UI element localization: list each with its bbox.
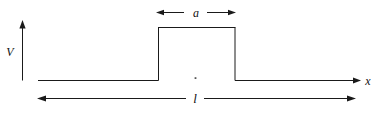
potential-barrier-figure: V x a [0,0,379,113]
horizontal-axis-label: x [364,74,371,88]
vertical-axis-label: V [6,45,15,59]
total-length-left-arrowhead-icon [37,95,46,101]
total-length-right-arrowhead-icon [347,95,356,101]
horizontal-axis-arrowhead-icon [353,78,361,84]
potential-curve [38,28,361,84]
total-length-label: l [193,91,197,106]
figure-canvas: V x a [0,0,379,113]
barrier-width-label: a [193,6,199,20]
vertical-axis-arrowhead-icon [19,20,25,29]
vertical-axis [19,20,25,81]
barrier-width-left-arrowhead-icon [156,10,164,16]
scan-speck [195,77,197,79]
barrier-width-right-arrowhead-icon [228,10,236,16]
